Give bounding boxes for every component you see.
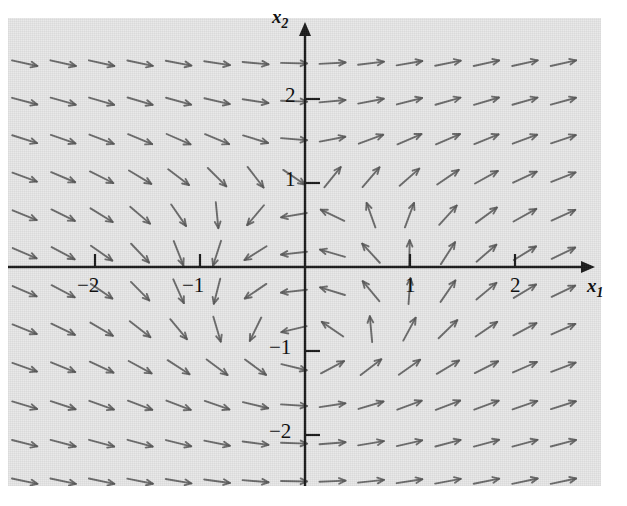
y-tick-label: 1 [285, 167, 296, 192]
y-tick-label: −1 [269, 335, 291, 360]
y-axis-name-label-base: x [272, 6, 282, 27]
y-axis-name-label: x2 [272, 6, 288, 32]
x-tick-label: −1 [182, 273, 204, 298]
x-axis-name-label-subscript: 1 [597, 285, 604, 300]
x-axis-name-label: x1 [587, 275, 603, 301]
x-tick-label: −2 [77, 273, 99, 298]
x-tick-label: 2 [510, 273, 521, 298]
x-axis-name-label-base: x [587, 275, 597, 296]
x-axis-arrowhead [581, 261, 595, 273]
y-axis-name-label-subscript: 2 [282, 16, 289, 31]
axis-layer [8, 18, 601, 486]
y-tick-label: −2 [269, 419, 291, 444]
axis-group [8, 22, 595, 486]
plot-area [8, 18, 601, 486]
y-tick-label: 2 [285, 83, 296, 108]
x-tick-label: 1 [405, 273, 416, 298]
direction-field-figure: −2−11221−1−2x1x2 [0, 0, 627, 506]
y-axis-arrowhead [299, 22, 311, 36]
